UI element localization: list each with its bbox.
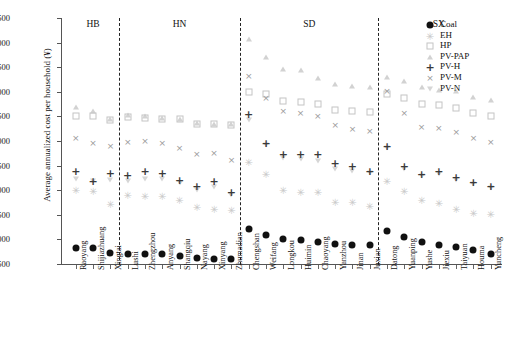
data-point-pv-h: +: [106, 171, 115, 176]
x-tick-mark: [318, 265, 319, 269]
data-point-pv-m: ×: [331, 123, 339, 128]
legend-item-pv-n[interactable]: PV-N: [424, 84, 512, 95]
data-point-hp: [401, 95, 408, 102]
y-tick-label: 5000: [0, 39, 10, 47]
y-tick-label: 4000: [0, 88, 10, 96]
data-point-pv-pap: [470, 94, 476, 99]
data-point-pv-pap: [298, 68, 304, 73]
data-point-pv-m: ×: [176, 145, 184, 150]
data-point-pv-pap: [349, 83, 355, 88]
legend-item-eh[interactable]: ✳EH: [424, 31, 512, 42]
x-tick-mark: [76, 265, 77, 269]
data-point-eh: ✳: [469, 210, 477, 215]
data-point-eh: ✳: [227, 207, 235, 212]
data-point-pv-h: +: [417, 171, 426, 176]
data-point-eh: ✳: [314, 190, 322, 195]
data-point-eh: ✳: [435, 200, 443, 205]
x-tick-mark: [422, 265, 423, 269]
data-point-eh: ✳: [158, 194, 166, 199]
data-point-coal: [332, 241, 339, 248]
data-point-eh: ✳: [366, 203, 374, 208]
data-point-eh: ✳: [383, 179, 391, 184]
data-point-pv-h: +: [227, 189, 236, 194]
data-point-hp: [453, 104, 460, 111]
y-axis-title: Average annualized cost per household (¥…: [42, 0, 52, 250]
legend-item-coal[interactable]: Coal: [424, 20, 512, 31]
data-point-pv-pap: [263, 54, 269, 59]
data-point-coal: [384, 227, 391, 234]
data-point-pv-pap: [142, 114, 148, 119]
data-point-hp: [297, 98, 304, 105]
data-point-coal: [280, 236, 287, 243]
y-tick-label: 5500: [0, 14, 10, 22]
data-point-pv-h: +: [71, 168, 80, 173]
data-point-coal: [435, 242, 442, 249]
data-point-eh: ✳: [175, 198, 183, 203]
y-tick-label: 500: [0, 260, 10, 268]
y-tick-label: 4500: [0, 63, 10, 71]
data-point-eh: ✳: [296, 190, 304, 195]
y-tick-label: 1500: [0, 211, 10, 219]
x-tick-label-lushi: Lushi: [131, 251, 140, 270]
data-point-hp: [487, 112, 494, 119]
data-point-hp: [90, 113, 97, 120]
data-point-coal: [107, 249, 114, 256]
data-point-pv-m: ×: [487, 139, 495, 144]
group-divider: [119, 18, 120, 265]
data-point-hp: [349, 108, 356, 115]
y-tick-label: 2500: [0, 162, 10, 170]
data-point-hp: [107, 117, 114, 124]
legend-item-pv-h[interactable]: +PV-H: [424, 62, 512, 73]
legend-label: PV-N: [440, 83, 460, 93]
data-point-pv-n: [263, 143, 269, 148]
data-point-coal: [297, 237, 304, 244]
data-point-hp: [263, 90, 270, 97]
data-point-pv-pap: [246, 37, 252, 42]
data-point-eh: ✳: [141, 194, 149, 199]
data-point-coal: [453, 243, 460, 250]
data-point-pv-m: ×: [228, 157, 236, 162]
data-point-pv-n: [177, 180, 183, 185]
data-point-coal: [159, 251, 166, 258]
data-point-pv-h: +: [296, 152, 305, 157]
data-point-hp: [245, 88, 252, 95]
data-point-hp: [280, 97, 287, 104]
legend-label: HP: [440, 40, 452, 50]
legend-label: EH: [440, 30, 452, 40]
y-tick-mark: [57, 92, 62, 93]
x-tick-label-taiyuan: Taiyuan: [460, 243, 469, 270]
data-point-coal: [418, 239, 425, 246]
group-divider: [378, 18, 379, 265]
legend-label: PV-PAP: [440, 51, 469, 61]
data-point-hp: [228, 121, 235, 128]
legend-item-pv-pap[interactable]: PV-PAP: [424, 52, 512, 63]
x-tick-mark: [283, 265, 284, 269]
data-point-pv-pap: [73, 105, 79, 110]
data-point-pv-m: ×: [383, 89, 391, 94]
legend-item-pv-m[interactable]: ×PV-M: [424, 73, 512, 84]
data-point-pv-h: +: [434, 169, 443, 174]
x-tick-label-huimin: Huimin: [304, 245, 313, 270]
x-tick-mark: [301, 265, 302, 269]
data-point-pv-n: [90, 179, 96, 184]
y-tick-mark: [57, 141, 62, 142]
data-point-pv-m: ×: [107, 144, 115, 149]
chart-root: Average annualized cost per household (¥…: [0, 0, 514, 357]
data-point-pv-h: +: [140, 169, 149, 174]
x-tick-label-shijiazhuang: Shijiazhuang: [97, 227, 106, 270]
data-point-pv-h: +: [244, 111, 253, 116]
x-tick-label-anyang: Anyang: [166, 244, 175, 270]
data-point-pv-m: ×: [72, 135, 80, 140]
data-point-eh: ✳: [487, 212, 495, 217]
data-point-pv-h: +: [192, 183, 201, 188]
data-point-pv-n: [332, 166, 338, 171]
data-point-eh: ✳: [89, 188, 97, 193]
x-tick-mark: [456, 265, 457, 269]
data-point-hp: [211, 121, 218, 128]
x-tick-label-shangqiu: Shangqiu: [183, 239, 192, 270]
x-tick-label-weifang: Weifang: [269, 242, 278, 270]
data-point-coal: [470, 246, 477, 253]
data-point-pv-pap: [280, 67, 286, 72]
data-point-hp: [384, 90, 391, 97]
data-point-pv-h: +: [469, 179, 478, 184]
